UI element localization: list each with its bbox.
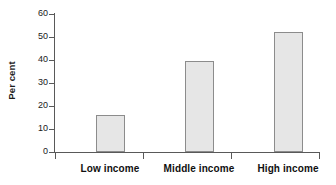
x-tick-mark-1: [143, 153, 144, 159]
y-tick-label-20: 20: [26, 101, 48, 110]
bar-chart: Per cent 60 50 40 30 20 10 0 Low income …: [0, 0, 336, 185]
y-tick-mark-10: [49, 129, 55, 130]
y-tick-label-0: 0: [26, 147, 48, 156]
y-axis-title-label: Per cent: [6, 61, 17, 99]
y-tick-mark-50: [49, 37, 55, 38]
y-tick-mark-20: [49, 106, 55, 107]
x-tick-mark-3: [319, 153, 320, 159]
bar-middle-income: [185, 61, 214, 152]
y-tick-mark-60: [49, 14, 55, 15]
y-tick-label-50: 50: [26, 32, 48, 41]
y-tick-label-10: 10: [26, 124, 48, 133]
x-tick-mark-0: [55, 153, 56, 159]
y-tick-label-40: 40: [26, 55, 48, 64]
y-tick-mark-30: [49, 83, 55, 84]
x-axis-label-middle-income: Middle income: [164, 163, 235, 174]
y-tick-label-30: 30: [26, 78, 48, 87]
x-axis-label-high-income: High income: [257, 163, 318, 174]
x-tick-mark-2: [231, 153, 232, 159]
x-axis-label-low-income: Low income: [81, 163, 140, 174]
bar-high-income: [274, 32, 303, 152]
x-axis-line: [54, 152, 320, 153]
y-tick-label-60: 60: [26, 9, 48, 18]
y-tick-mark-40: [49, 60, 55, 61]
y-axis-title: Per cent: [0, 0, 22, 160]
bar-low-income: [96, 115, 125, 152]
